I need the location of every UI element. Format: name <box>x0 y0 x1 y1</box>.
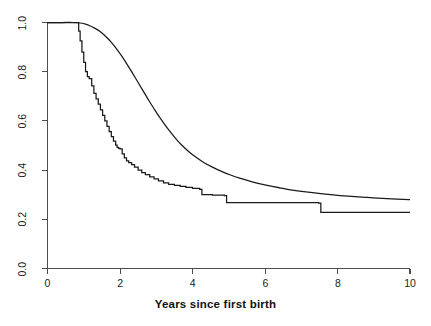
x-tick-label: 2 <box>108 278 132 289</box>
y-tick-label: 0.6 <box>17 108 28 134</box>
y-tick-marks <box>42 23 48 269</box>
plot-canvas <box>0 0 431 326</box>
y-tick-label: 0.8 <box>17 59 28 85</box>
x-tick-label: 8 <box>326 278 350 289</box>
x-tick-label: 0 <box>36 278 60 289</box>
y-tick-label: 1.0 <box>17 10 28 36</box>
y-tick-label: 0.2 <box>17 207 28 233</box>
y-tick-label: 0.0 <box>17 256 28 282</box>
smooth-survival-curve <box>48 22 411 199</box>
survival-curve-figure: 0.0 0.2 0.4 0.6 0.8 1.0 0 2 4 6 8 10 Yea… <box>0 0 431 326</box>
x-axis-title: Years since first birth <box>0 298 431 310</box>
axis-group <box>47 22 410 269</box>
data-series-group <box>48 22 411 212</box>
y-tick-label: 0.4 <box>17 157 28 183</box>
kaplan-meier-step-curve <box>48 23 411 213</box>
x-tick-label: 6 <box>253 278 277 289</box>
x-tick-label: 10 <box>398 278 422 289</box>
x-tick-label: 4 <box>181 278 205 289</box>
x-tick-marks <box>48 269 411 275</box>
